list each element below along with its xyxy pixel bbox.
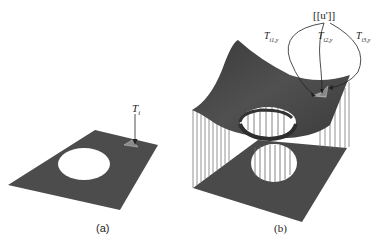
caption-a: (a): [96, 222, 109, 234]
panel-b-bottom-plate: [193, 140, 347, 222]
caption-b: (b): [274, 222, 287, 234]
panel-a-plate: [8, 114, 158, 210]
label-ti3y: Ti3,y: [356, 30, 370, 43]
label-ti1y: Ti1,y: [264, 30, 278, 43]
label-u-jump: [[u']]: [313, 9, 335, 21]
panel-b-curved-surface: [192, 40, 350, 139]
figure: Ti (a) [[u']] Ti1,y Ti2,y Ti3,y (b): [0, 0, 384, 239]
label-ti2y: Ti2,y: [318, 30, 332, 43]
label-ti: Ti: [132, 102, 140, 117]
